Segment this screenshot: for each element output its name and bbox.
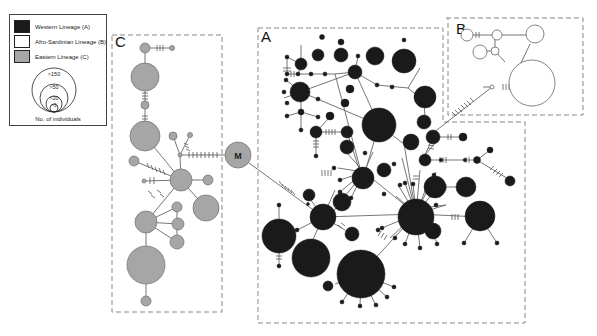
cluster-b-nodes	[461, 25, 555, 106]
mutation-ticks	[142, 32, 512, 259]
size-label-150: >150	[39, 71, 69, 77]
legend: Western Lineage (A) Afro-Sardinian Linea…	[9, 14, 107, 126]
panel-a-border	[258, 28, 525, 323]
central-node-label: M	[234, 151, 242, 161]
size-label-5: >5	[39, 103, 69, 108]
network-edges	[134, 35, 533, 306]
cluster-c-nodes	[127, 43, 219, 306]
size-label-20: >20	[39, 95, 69, 101]
panel-label-b: B	[456, 20, 466, 37]
cluster-a-nodes	[262, 35, 515, 309]
size-label-50: >50	[39, 84, 69, 90]
panel-label-a: A	[261, 28, 271, 45]
central-node-m: M	[225, 142, 251, 168]
panel-c-border	[112, 35, 222, 312]
panel-label-c: C	[115, 33, 126, 50]
legend-footer: No. of individuals	[10, 116, 106, 122]
panel-b-border	[446, 18, 583, 115]
